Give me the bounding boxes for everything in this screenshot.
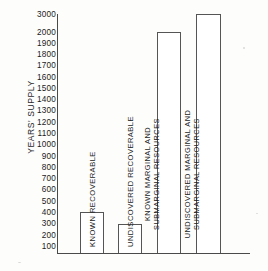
- y-axis-tick-900: 900: [22, 152, 56, 161]
- y-axis-line: [57, 14, 58, 254]
- x-axis-line: [57, 253, 250, 254]
- y-axis-tick-1600: 1600: [22, 73, 56, 82]
- bar-label-2: UNDISCOVERED RECOVERABLE: [126, 116, 135, 247]
- bar-3: KNOWN MARGINAL AND SUBMARGINAL RESOURCES: [157, 32, 181, 253]
- y-axis-tick-800: 800: [22, 163, 56, 172]
- y-axis-tick-1000: 1000: [22, 140, 56, 149]
- bar-label-1: KNOWN RECOVERABLE: [88, 151, 97, 247]
- y-axis-tick-3000: 3000: [22, 10, 56, 19]
- bar-label-4: UNDISCOVERED MARGINAL AND SUBMARGINAL RE…: [183, 99, 200, 249]
- y-axis-tick-1200: 1200: [22, 118, 56, 127]
- bar-1: KNOWN RECOVERABLE: [80, 212, 104, 253]
- y-axis-tick-1800: 1800: [22, 50, 56, 59]
- y-axis-tick-400: 400: [22, 208, 56, 217]
- y-axis-tick-100: 100: [22, 242, 56, 251]
- y-axis-tick-1900: 1900: [22, 39, 56, 48]
- y-axis-tick-1500: 1500: [22, 84, 56, 93]
- y-axis-tick-600: 600: [22, 185, 56, 194]
- bar-2: UNDISCOVERED RECOVERABLE: [118, 224, 142, 253]
- y-axis-tick-1300: 1300: [22, 106, 56, 115]
- y-axis-tick-2000: 2000: [22, 28, 56, 37]
- bar-label-3: KNOWN MARGINAL AND SUBMARGINAL RESOURCES: [144, 99, 161, 249]
- scan-speck: [243, 47, 245, 49]
- y-axis-tick-700: 700: [22, 174, 56, 183]
- y-axis-tick-labels: 3000200019001800170016001500140013001200…: [22, 0, 56, 271]
- y-axis-tick-300: 300: [22, 219, 56, 228]
- y-axis-tick-200: 200: [22, 231, 56, 240]
- y-axis-tick-500: 500: [22, 197, 56, 206]
- plot-area: KNOWN RECOVERABLEUNDISCOVERED RECOVERABL…: [57, 14, 250, 254]
- scan-speck: [256, 213, 258, 214]
- y-axis-tick-1100: 1100: [22, 129, 56, 138]
- scan-speck: [18, 262, 21, 263]
- y-axis-tick-1700: 1700: [22, 61, 56, 70]
- bar-chart-figure: YEARS' SUPPLY 30002000190018001700160015…: [0, 0, 268, 271]
- bar-4: UNDISCOVERED MARGINAL AND SUBMARGINAL RE…: [196, 14, 221, 253]
- y-axis-tick-1400: 1400: [22, 95, 56, 104]
